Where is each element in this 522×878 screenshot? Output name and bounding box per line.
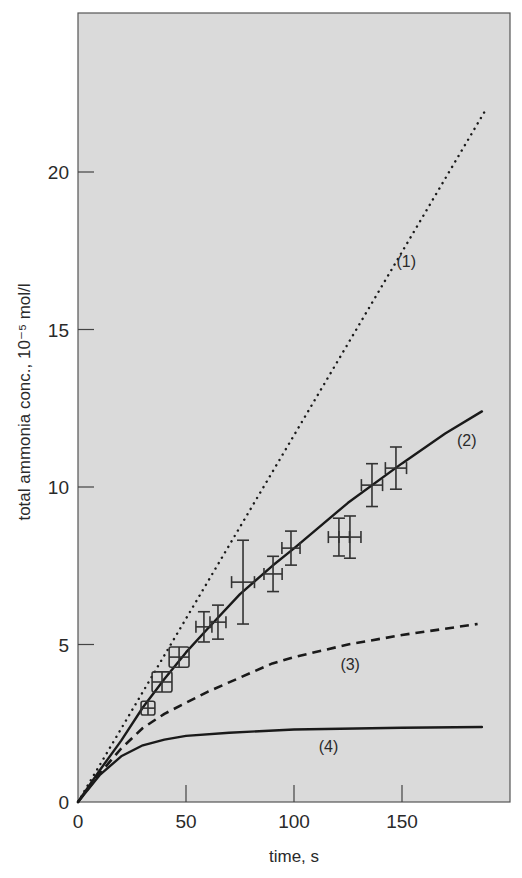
y-tick-label: 5 [58, 635, 69, 656]
y-tick-label: 20 [48, 162, 69, 183]
curve-label-3: (3) [340, 656, 360, 673]
curve-label-1: (1) [397, 253, 417, 270]
x-tick-label: 0 [73, 811, 84, 832]
x-axis-title: time, s [269, 847, 319, 866]
y-tick-label: 0 [58, 792, 69, 813]
curve-label-2: (2) [457, 432, 477, 449]
y-tick-label: 10 [48, 477, 69, 498]
y-axis-title: total ammonia conc., 10⁻⁵ mol/l [15, 283, 34, 520]
curve-label-4: (4) [319, 738, 339, 755]
x-tick-label: 150 [386, 811, 418, 832]
y-tick-label: 15 [48, 320, 69, 341]
chart: 05010015005101520 (1)(2)(3)(4) time, s t… [0, 0, 522, 878]
x-tick-label: 50 [175, 811, 196, 832]
plot-area [78, 13, 510, 802]
x-tick-label: 100 [278, 811, 310, 832]
